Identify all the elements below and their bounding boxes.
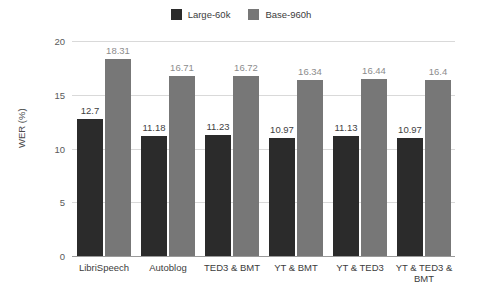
bar-large-60k[interactable]: 11.18 — [141, 136, 167, 256]
x-tick-label: LibriSpeech — [67, 262, 141, 273]
bar-base-960h[interactable]: 18.31 — [105, 59, 131, 256]
bar-value: 16.72 — [234, 62, 258, 73]
bar-value: 10.97 — [270, 124, 294, 135]
bar-large-60k[interactable]: 10.97 — [397, 138, 423, 256]
legend-label-base-960h: Base-960h — [265, 9, 311, 20]
y-tick-10: 10 — [54, 143, 65, 154]
legend-label-large-60k: Large-60k — [188, 9, 231, 20]
y-tick-20: 20 — [54, 36, 65, 47]
x-axis-line: 0 — [72, 256, 455, 257]
y-axis-label: WER (%) — [16, 108, 27, 148]
bar-value: 16.4 — [429, 66, 448, 77]
bar-value: 16.44 — [362, 65, 386, 76]
bar-large-60k[interactable]: 10.97 — [269, 138, 295, 256]
legend-swatch-base-960h — [248, 9, 259, 20]
bar-value: 18.31 — [106, 45, 130, 56]
y-tick-5: 5 — [60, 197, 65, 208]
x-tick-label: YT & BMT — [259, 262, 333, 273]
x-tick-label: YT & TED3 — [323, 262, 397, 273]
chart-legend: Large-60k Base-960h — [0, 9, 482, 20]
bar-group: 11.13 16.44 YT & TED3 — [328, 41, 392, 256]
bar-group: 11.18 16.71 Autoblog — [136, 41, 200, 256]
bar-large-60k[interactable]: 12.7 — [77, 119, 103, 256]
x-tick-label: YT & TED3 & BMT — [387, 262, 461, 284]
plot-area: 20 15 10 5 0 12.7 18.31 LibriSpeech 11. — [72, 41, 455, 256]
bar-large-60k[interactable]: 11.13 — [333, 136, 359, 256]
bar-value: 12.7 — [81, 105, 100, 116]
legend-item-large-60k[interactable]: Large-60k — [171, 9, 231, 20]
bar-large-60k[interactable]: 11.23 — [205, 135, 231, 256]
bar-base-960h[interactable]: 16.44 — [361, 79, 387, 256]
legend-item-base-960h[interactable]: Base-960h — [248, 9, 311, 20]
bar-base-960h[interactable]: 16.72 — [233, 76, 259, 256]
bar-value: 11.23 — [206, 121, 229, 132]
y-tick-0: 0 — [60, 251, 65, 262]
bar-value: 16.71 — [170, 62, 194, 73]
y-tick-15: 15 — [54, 89, 65, 100]
x-tick-label: TED3 & BMT — [195, 262, 269, 273]
bar-group: 10.97 16.4 YT & TED3 & BMT — [392, 41, 456, 256]
bar-group: 11.23 16.72 TED3 & BMT — [200, 41, 264, 256]
bar-group: 10.97 16.34 YT & BMT — [264, 41, 328, 256]
bar-chart: Large-60k Base-960h WER (%) 20 15 10 5 0… — [0, 0, 482, 297]
bar-group: 12.7 18.31 LibriSpeech — [72, 41, 136, 256]
bar-value: 11.18 — [142, 122, 165, 133]
bar-value: 11.13 — [334, 122, 357, 133]
x-tick-label: Autoblog — [131, 262, 205, 273]
bar-value: 10.97 — [398, 124, 422, 135]
bar-value: 16.34 — [298, 66, 322, 77]
legend-swatch-large-60k — [171, 9, 182, 20]
bar-base-960h[interactable]: 16.71 — [169, 76, 195, 256]
bar-base-960h[interactable]: 16.34 — [297, 80, 323, 256]
bar-base-960h[interactable]: 16.4 — [425, 80, 451, 256]
